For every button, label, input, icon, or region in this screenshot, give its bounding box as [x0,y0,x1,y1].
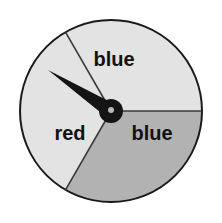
sector-label-top: blue [93,48,134,70]
spinner-hub-dot [108,107,114,113]
sector-label-left: red [54,122,85,144]
spinner-canvas: blue blue red [0,0,222,223]
sector-label-bottom-right: blue [131,122,172,144]
spinner-figure: blue blue red [0,0,222,223]
